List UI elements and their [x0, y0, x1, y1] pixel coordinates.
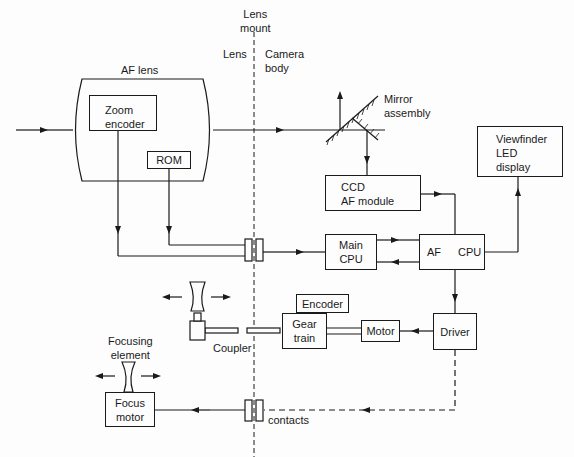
lens-mount-label: Lens mount: [240, 7, 271, 35]
af-cpu-box: AF CPU: [419, 234, 485, 270]
mirror-assembly-label: Mirror assembly: [384, 92, 430, 120]
viewfinder-label: Viewfinder LED display: [496, 133, 547, 173]
coupler-label: Coupler: [213, 341, 252, 355]
gear-train-box: Gear train: [282, 313, 327, 349]
rom-box: ROM: [147, 151, 191, 169]
motor-box: Motor: [361, 320, 400, 342]
rom-label: ROM: [156, 153, 182, 167]
af-lens-title: AF lens: [121, 63, 158, 77]
zoom-encoder-box: Zoom encoder: [89, 95, 157, 131]
af-cpu-cpu-label: CPU: [458, 245, 481, 259]
encoder-box: Encoder: [296, 294, 349, 313]
driver-box: Driver: [433, 313, 477, 350]
focusing-element-label: Focusing element: [108, 334, 153, 362]
camera-body-label: Camera body: [265, 47, 304, 75]
focus-motor-label: Focus motor: [115, 396, 145, 424]
zoom-encoder-label: Zoom encoder: [105, 104, 145, 130]
main-cpu-label: Main CPU: [339, 238, 363, 266]
encoder-label: Encoder: [302, 297, 343, 311]
contacts-label: contacts: [268, 413, 309, 427]
ccd-af-module-box: CCD AF module: [325, 175, 421, 211]
driver-label: Driver: [440, 325, 469, 339]
main-cpu-box: Main CPU: [325, 234, 377, 270]
af-cpu-af-label: AF: [427, 245, 441, 259]
viewfinder-led-display-box: Viewfinder LED display: [477, 126, 563, 177]
gear-train-label: Gear train: [292, 317, 316, 345]
focus-motor-box: Focus motor: [105, 392, 155, 427]
motor-label: Motor: [366, 324, 394, 338]
lens-side-label: Lens: [223, 47, 247, 61]
ccd-af-module-label: CCD AF module: [341, 181, 394, 207]
